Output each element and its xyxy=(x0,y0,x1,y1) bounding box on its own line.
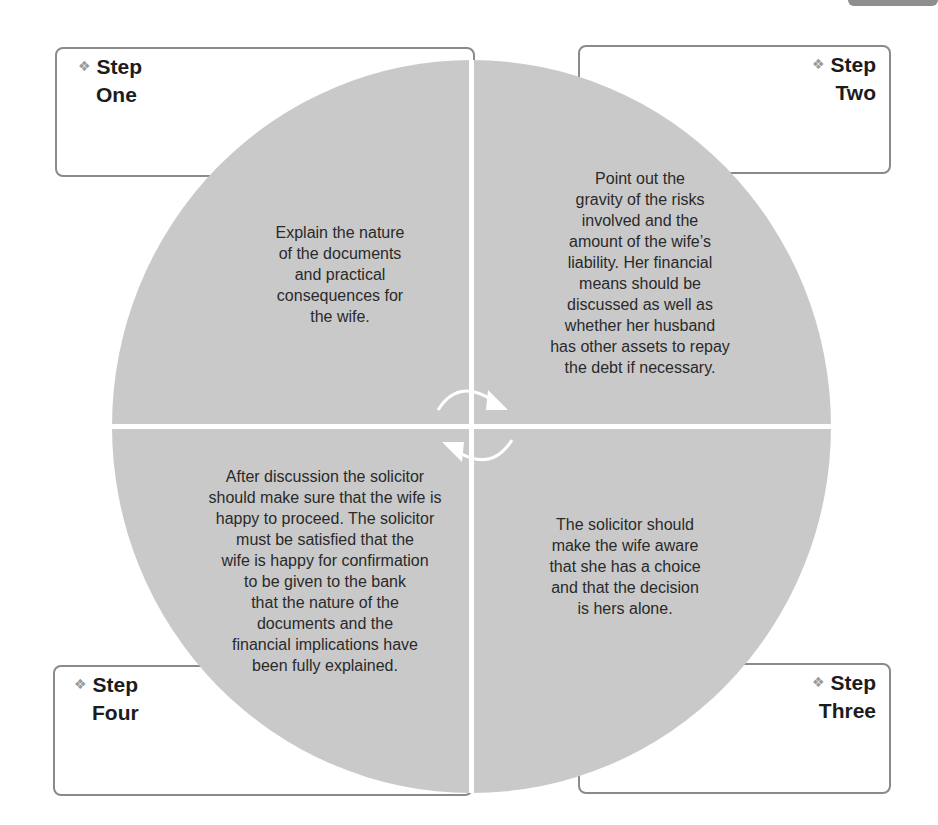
circular-arrows-icon xyxy=(430,380,520,475)
step-three-label: ❖Step Three xyxy=(812,668,876,725)
diamond-cluster-icon: ❖ xyxy=(74,676,87,692)
step-four-label: ❖Step Four xyxy=(74,670,139,727)
page-corner-tab xyxy=(848,0,938,6)
step-one-text: Explain the nature of the documents and … xyxy=(250,222,430,327)
diamond-cluster-icon: ❖ xyxy=(812,674,825,690)
step-four-text: After discussion the solicitor should ma… xyxy=(175,466,475,676)
step-three-text: The solicitor should make the wife aware… xyxy=(525,514,725,619)
diamond-cluster-icon: ❖ xyxy=(812,56,825,72)
step-one-label: ❖Step One xyxy=(78,52,142,109)
step-two-label: ❖Step Two xyxy=(812,50,876,107)
step-two-text: Point out the gravity of the risks invol… xyxy=(535,168,745,378)
diamond-cluster-icon: ❖ xyxy=(78,58,91,74)
